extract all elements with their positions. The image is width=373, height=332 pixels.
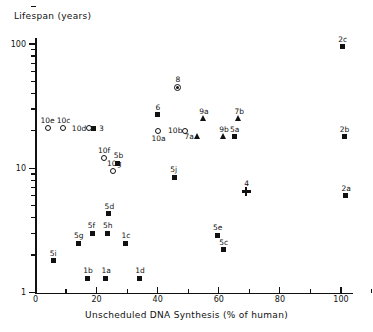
y-tick-minor (31, 254, 36, 255)
point-label: 5g (74, 232, 84, 240)
marker-triangle-icon (235, 115, 241, 121)
point-label: 1a (102, 267, 111, 275)
marker-circledot-icon (174, 84, 181, 91)
point-label: 6 (156, 104, 161, 112)
marker-square-icon (123, 241, 128, 246)
x-tick-label: 20 (82, 295, 112, 304)
x-tick-label: 100 (326, 295, 356, 304)
y-tick-minor (31, 108, 36, 109)
marker-square-icon (106, 211, 111, 216)
point-label: 5f (88, 222, 95, 230)
x-tick-major (157, 287, 158, 293)
y-tick-minor (31, 180, 36, 181)
x-axis-title: Unscheduled DNA Synthesis (% of human) (0, 310, 373, 320)
marker-circle-icon (155, 128, 161, 134)
point-label: 10g (107, 160, 121, 168)
point-label: 5c (219, 239, 228, 247)
y-tick-minor (31, 71, 36, 72)
marker-square-icon (221, 247, 226, 252)
marker-triangle-icon (200, 115, 206, 121)
x-tick-label: 80 (265, 295, 295, 304)
y-tick-minor (31, 233, 36, 234)
marker-square-icon (137, 276, 142, 281)
point-label: 9b (219, 126, 229, 134)
marker-circle-icon (45, 125, 51, 131)
x-tick-label: 0 (21, 295, 51, 304)
x-tick-label: 60 (204, 295, 234, 304)
x-tick-minor (249, 289, 250, 293)
x-tick-minor (310, 289, 311, 293)
marker-square-icon (232, 134, 237, 139)
y-tick-minor (31, 195, 36, 196)
x-tick-major (96, 287, 97, 293)
marker-square-icon (90, 231, 95, 236)
y-tick-label: 100 (0, 40, 26, 49)
marker-plus-icon (242, 187, 251, 196)
y-axis-title: Lifespan (years) (14, 11, 91, 21)
scatter-plot: Lifespan (years) 100101 020406080100 2c8… (0, 0, 373, 332)
point-label: 1b (83, 267, 93, 275)
marker-triangle-icon (220, 133, 226, 139)
point-label: 10f (98, 147, 110, 155)
point-label: 8 (175, 76, 180, 84)
x-tick-minor (127, 289, 128, 293)
x-tick-major (340, 287, 341, 293)
point-label: 7b (234, 108, 244, 116)
x-tick-minor (188, 289, 189, 293)
point-label: 1c (121, 232, 130, 240)
y-tick-minor (31, 49, 36, 50)
y-tick-minor (31, 6, 36, 7)
marker-square-icon (51, 258, 56, 263)
marker-triangle-icon (194, 133, 200, 139)
marker-square-icon (340, 44, 345, 49)
point-label: 4 (244, 180, 249, 188)
x-tick-major (218, 287, 219, 293)
marker-square-icon (215, 233, 220, 238)
y-tick-minor (31, 205, 36, 206)
marker-square-icon (105, 231, 110, 236)
x-tick-minor (65, 289, 66, 293)
marker-square-icon (343, 193, 348, 198)
marker-square-icon (172, 175, 177, 180)
y-tick-major (29, 43, 36, 44)
marker-square-icon (85, 276, 90, 281)
point-label: 10e (40, 117, 54, 125)
point-label: 5e (213, 224, 222, 232)
marker-square-icon (76, 241, 81, 246)
point-label: 10b (168, 127, 182, 135)
point-label: 10d (72, 125, 86, 133)
point-label: 7a (185, 133, 194, 141)
marker-circle-icon (110, 168, 116, 174)
point-label: 9a (199, 108, 208, 116)
marker-circle-icon (60, 125, 66, 131)
y-tick-minor (31, 63, 36, 64)
point-label: 10c (57, 117, 71, 125)
point-label: 1d (135, 267, 145, 275)
y-tick-minor (31, 173, 36, 174)
marker-square-icon (103, 276, 108, 281)
y-tick-minor (31, 130, 36, 131)
x-axis-line (35, 293, 353, 295)
y-tick-minor (31, 93, 36, 94)
y-tick-minor (31, 81, 36, 82)
marker-square-icon (155, 112, 160, 117)
x-tick-major (279, 287, 280, 293)
y-tick-minor (31, 217, 36, 218)
y-tick-minor (31, 55, 36, 56)
marker-square-icon (91, 126, 96, 131)
y-tick-major (29, 168, 36, 169)
point-label: 2a (341, 185, 350, 193)
point-label: 5i (50, 250, 57, 258)
y-tick-label: 10 (0, 164, 26, 173)
x-tick-minor (371, 289, 372, 293)
point-label: 2b (340, 126, 350, 134)
point-label: 5a (230, 126, 239, 134)
x-tick-label: 40 (143, 295, 173, 304)
marker-square-icon (342, 134, 347, 139)
point-label: 2c (338, 36, 347, 44)
y-tick-minor (31, 187, 36, 188)
x-tick-major (35, 287, 36, 293)
point-label: 5d (105, 203, 115, 211)
point-label: 3 (99, 125, 104, 133)
point-label: 10a (151, 135, 165, 143)
